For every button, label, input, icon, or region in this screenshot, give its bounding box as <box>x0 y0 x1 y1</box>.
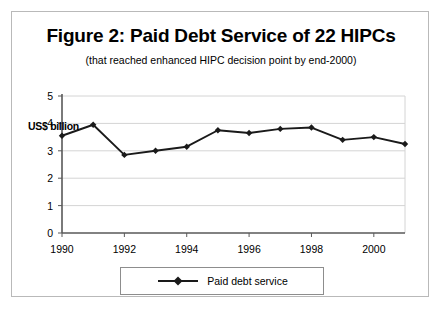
figure-subtitle: (that reached enhanced HIPC decision poi… <box>12 54 430 66</box>
legend-entry-label: Paid debt service <box>207 275 288 287</box>
line-marker-diamond-icon <box>156 275 200 287</box>
figure-container: Figure 2: Paid Debt Service of 22 HIPCs … <box>11 11 429 297</box>
chart-legend: Paid debt service <box>120 267 324 295</box>
y-axis-unit-label: US$ billion <box>28 120 79 132</box>
figure-title: Figure 2: Paid Debt Service of 22 HIPCs <box>12 25 430 47</box>
